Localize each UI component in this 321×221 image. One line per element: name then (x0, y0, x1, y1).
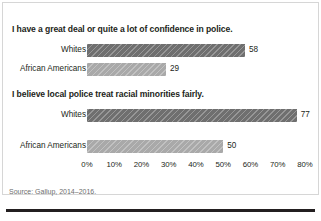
category-label: African Americans (0, 141, 86, 150)
panel-title-treat-minorities-fairly: I believe local police treat racial mino… (12, 89, 204, 99)
x-tick-label: 20% (128, 160, 156, 169)
chart-figure: I have a great deal or quite a lot of co… (0, 0, 321, 221)
x-axis-tick-labels: 0%10%20%30%40%50%60%70%80% (0, 160, 321, 172)
bar-value-label: 77 (301, 110, 310, 119)
category-label: Whites (0, 110, 86, 119)
x-tick-label: 60% (237, 160, 265, 169)
source-note: Source: Gallup, 2014–2016. (9, 188, 96, 195)
bar-row: African Americans 29 (0, 63, 321, 76)
bar-row: Whites 77 (0, 109, 321, 122)
bar-african-americans-confidence (87, 63, 166, 76)
x-tick-label: 50% (209, 160, 237, 169)
bar-whites-fairness (87, 109, 297, 122)
category-label: Whites (0, 45, 86, 54)
category-label: African Americans (0, 64, 86, 73)
bar-row: African Americans 50 (0, 140, 321, 153)
x-tick-label: 80% (291, 160, 319, 169)
bottom-rule (6, 209, 315, 212)
bar-african-americans-fairness (87, 140, 223, 153)
x-tick-label: 40% (182, 160, 210, 169)
x-tick-label: 70% (264, 160, 292, 169)
bar-whites-confidence (87, 44, 245, 57)
bar-value-label: 50 (227, 141, 236, 150)
bar-row: Whites 58 (0, 44, 321, 57)
x-tick-label: 30% (155, 160, 183, 169)
panel-title-confidence-in-police: I have a great deal or quite a lot of co… (12, 24, 232, 34)
bar-value-label: 58 (249, 45, 258, 54)
bar-value-label: 29 (170, 64, 179, 73)
x-tick-label: 10% (100, 160, 128, 169)
x-tick-label: 0% (73, 160, 101, 169)
